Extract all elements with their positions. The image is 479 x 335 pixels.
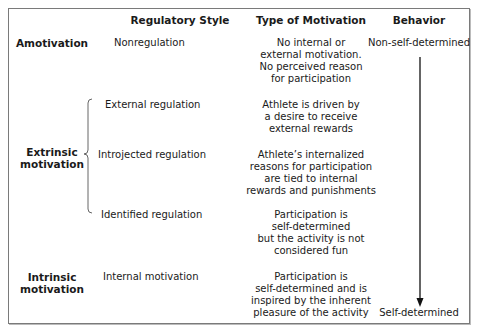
- down-arrow-icon: [417, 57, 424, 307]
- curly-brace-icon: [84, 99, 92, 213]
